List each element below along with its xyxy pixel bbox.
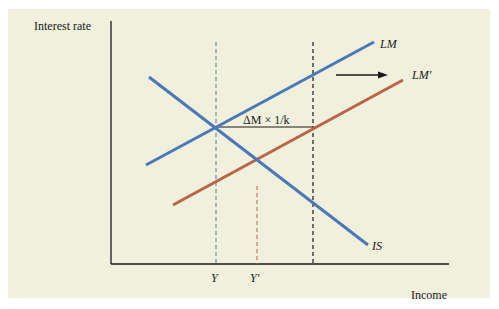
lm-prime-label: LM′	[412, 69, 431, 81]
lm-curve	[146, 42, 374, 165]
is-lm-diagram	[0, 0, 499, 309]
x-tick-y-prime: Y′	[250, 272, 259, 284]
lm-label: LM	[380, 38, 397, 50]
x-tick-y: Y	[211, 272, 218, 284]
y-axis-label: Interest rate	[34, 20, 91, 32]
arrow-head-icon	[378, 72, 388, 79]
delta-m-annotation: ΔM × 1/k	[243, 114, 290, 126]
lm-prime-curve	[173, 80, 403, 205]
is-label: IS	[372, 240, 382, 252]
is-curve	[149, 77, 368, 245]
x-axis-label: Income	[411, 289, 447, 301]
